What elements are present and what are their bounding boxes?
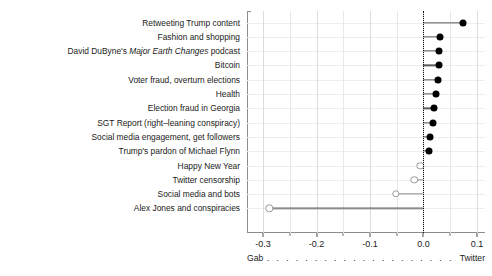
data-point[interactable] <box>411 176 418 183</box>
x-tick-minor <box>396 233 397 236</box>
category-label: Voter fraud, overturn elections <box>128 75 240 84</box>
x-tick-major <box>316 233 317 237</box>
category-label: Retweeting Trump content <box>142 18 240 27</box>
zero-line <box>423 11 424 233</box>
gridline-vertical-minor <box>290 11 291 233</box>
x-tick-label: 0.0 <box>417 239 430 249</box>
gridline-vertical-major <box>317 11 318 233</box>
x-tick-major <box>263 233 264 237</box>
category-label: Election fraud in Georgia <box>148 104 240 113</box>
x-tick-label: -0.3 <box>255 239 271 249</box>
x-tick-minor <box>343 233 344 236</box>
x-tick-label: -0.2 <box>309 239 325 249</box>
category-label: Social media engagement, get followers <box>91 132 240 141</box>
lollipop-chart-figure: Retweeting Trump contentFashion and shop… <box>0 0 492 276</box>
category-label: Health <box>216 90 240 99</box>
data-point[interactable] <box>430 119 437 126</box>
data-point[interactable] <box>436 62 443 69</box>
category-label: Alex Jones and conspiracies <box>134 204 240 213</box>
data-point[interactable] <box>426 148 433 155</box>
category-label-column: Retweeting Trump contentFashion and shop… <box>0 0 244 238</box>
category-label: Social media and bots <box>158 190 240 199</box>
lollipop-stem <box>396 193 424 194</box>
data-point[interactable] <box>427 133 434 140</box>
plot-panel <box>247 11 485 233</box>
x-tick-major <box>423 233 424 237</box>
category-label: SGT Report (right–leaning conspiracy) <box>97 118 240 127</box>
axis-endpoint-caption: Gab . . . . . . . . . . . . . . . . . . … <box>247 253 485 267</box>
axis-left-end-label: Gab <box>247 253 263 263</box>
gridline-vertical-minor <box>397 11 398 233</box>
category-label: Bitcoin <box>215 61 240 70</box>
data-point[interactable] <box>266 205 273 212</box>
x-tick-major <box>476 233 477 237</box>
data-point[interactable] <box>432 91 439 98</box>
x-tick-minor <box>450 233 451 236</box>
lollipop-stem <box>269 208 423 209</box>
data-point[interactable] <box>392 190 399 197</box>
category-label: David DuByne's Major Earth Changes podca… <box>68 47 240 56</box>
data-point[interactable] <box>460 19 467 26</box>
x-tick-label: 0.1 <box>471 239 484 249</box>
data-point[interactable] <box>434 76 441 83</box>
x-tick-minor <box>289 233 290 236</box>
data-point[interactable] <box>436 48 443 55</box>
category-label: Fashion and shopping <box>158 32 240 41</box>
gridline-vertical-major <box>263 11 264 233</box>
lollipop-stem <box>423 22 463 23</box>
x-tick-major <box>370 233 371 237</box>
axis-right-end-label: Twitter <box>460 253 485 263</box>
gridline-vertical-major <box>370 11 371 233</box>
gridline-vertical-minor <box>343 11 344 233</box>
category-label: Happy New Year <box>178 161 240 170</box>
data-point[interactable] <box>430 105 437 112</box>
data-point[interactable] <box>437 33 444 40</box>
axis-dot-connector: . . . . . . . . . . . . . . . . . . . . … <box>267 253 453 263</box>
x-tick-label: -0.1 <box>362 239 378 249</box>
category-label: Trump's pardon of Michael Flynn <box>119 147 240 156</box>
gridline-vertical-major <box>477 11 478 233</box>
panel-top-nub <box>247 11 251 12</box>
category-label: Twitter censorship <box>173 175 241 184</box>
gridline-vertical-minor <box>450 11 451 233</box>
